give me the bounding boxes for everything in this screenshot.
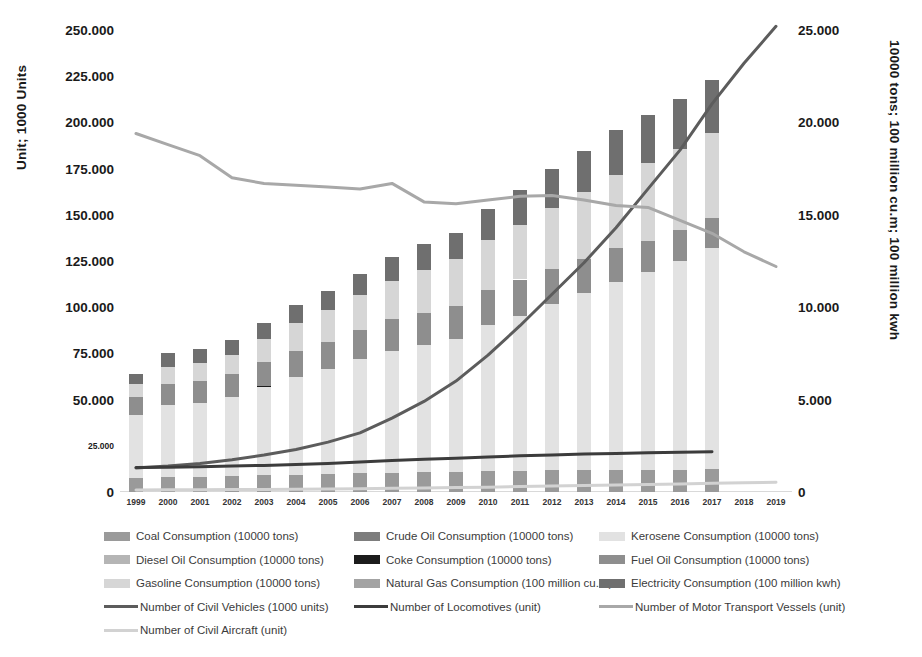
- legend-swatch-icon: [354, 532, 380, 541]
- line-series[interactable]: [136, 26, 776, 468]
- legend-line-icon: [354, 605, 388, 608]
- plot-area: [120, 30, 792, 492]
- legend-label: Diesel Oil Consumption (10000 tons): [136, 554, 324, 566]
- legend-label: Number of Locomotives (unit): [390, 601, 541, 613]
- legend-swatch-icon: [599, 579, 625, 588]
- x-tick-label: 2002: [223, 497, 242, 507]
- legend-swatch-icon: [599, 532, 625, 541]
- y-tick-label: 125.000: [36, 254, 114, 269]
- y-tick-label: 200.000: [36, 115, 114, 130]
- legend-gasoline[interactable]: Gasoline Consumption (10000 tons): [104, 577, 320, 589]
- legend-line-icon: [599, 605, 633, 608]
- x-tick-label: 2009: [447, 497, 466, 507]
- y-tick-label: 250.000: [36, 23, 114, 38]
- x-tick-label: 2015: [639, 497, 658, 507]
- legend-civil-vehicles[interactable]: Number of Civil Vehicles (1000 units): [104, 601, 329, 613]
- x-tick-label: 2004: [287, 497, 306, 507]
- x-tick-label: 2008: [415, 497, 434, 507]
- legend-label: Gasoline Consumption (10000 tons): [136, 577, 320, 589]
- y-axis-left-ticks: 025.00050.00075.000100.000125.000150.000…: [32, 30, 114, 492]
- x-tick-label: 2001: [191, 497, 210, 507]
- legend-natural-gas[interactable]: Natural Gas Consumption (100 million cu.…: [354, 577, 612, 589]
- legend-swatch-icon: [104, 532, 130, 541]
- lines-layer: [120, 30, 792, 492]
- y-axis-right-title: 10000 tons; 100 million cu.m; 100 millio…: [887, 40, 902, 480]
- legend-swatch-icon: [354, 555, 380, 564]
- legend-line-icon: [104, 605, 138, 608]
- y-tick-label: 100.000: [36, 300, 114, 315]
- legend-kerosene[interactable]: Kerosene Consumption (10000 tons): [599, 530, 819, 542]
- y-tick-label: 225.000: [36, 69, 114, 84]
- line-series[interactable]: [136, 482, 776, 490]
- x-tick-label: 2003: [255, 497, 274, 507]
- legend-label: Fuel Oil Consumption (10000 tons): [631, 554, 809, 566]
- x-tick-label: 2000: [159, 497, 178, 507]
- y2-tick-label: 10.000: [798, 300, 870, 315]
- x-tick-label: 1999: [127, 497, 146, 507]
- x-tick-label: 2014: [607, 497, 626, 507]
- y-tick-label: 50.000: [36, 392, 114, 407]
- y-axis-left-title: Unit; 1000 Units: [14, 0, 29, 170]
- y-tick-label: 0: [36, 485, 114, 500]
- x-tick-label: 2018: [735, 497, 754, 507]
- y2-tick-label: 15.000: [798, 207, 870, 222]
- x-tick-label: 2013: [575, 497, 594, 507]
- y2-tick-label: 20.000: [798, 115, 870, 130]
- legend-row: Number of Civil Vehicles (1000 units)Num…: [104, 601, 914, 624]
- legend-label: Coal Consumption (10000 tons): [136, 530, 298, 542]
- legend-row: Coal Consumption (10000 tons)Crude Oil C…: [104, 530, 914, 553]
- legend-line-icon: [104, 629, 138, 632]
- y2-tick-label: 5.000: [798, 392, 870, 407]
- legend-label: Natural Gas Consumption (100 million cu.…: [386, 577, 612, 589]
- y-tick-label: 25.000: [36, 441, 114, 451]
- y-tick-label: 75.000: [36, 346, 114, 361]
- legend-crude-oil[interactable]: Crude Oil Consumption (10000 tons): [354, 530, 573, 542]
- x-tick-label: 2006: [351, 497, 370, 507]
- legend-coal[interactable]: Coal Consumption (10000 tons): [104, 530, 298, 542]
- legend-label: Number of Motor Transport Vessels (unit): [635, 601, 845, 613]
- legend-row: Gasoline Consumption (10000 tons)Natural…: [104, 577, 914, 600]
- chart-container: Unit; 1000 Units 10000 tons; 100 million…: [0, 0, 922, 657]
- legend-civil-aircraft[interactable]: Number of Civil Aircraft (unit): [104, 624, 287, 636]
- x-tick-label: 2011: [511, 497, 529, 507]
- legend-label: Number of Civil Aircraft (unit): [140, 624, 287, 636]
- y2-tick-label: 0: [798, 485, 870, 500]
- legend-swatch-icon: [104, 579, 130, 588]
- legend-label: Coke Consumption (10000 tons): [386, 554, 552, 566]
- legend-fuel-oil[interactable]: Fuel Oil Consumption (10000 tons): [599, 554, 809, 566]
- legend-swatch-icon: [599, 555, 625, 564]
- y-axis-right-ticks: 05.00010.00015.00020.00025.000: [798, 30, 878, 492]
- legend-locomotives[interactable]: Number of Locomotives (unit): [354, 601, 541, 613]
- y-tick-label: 150.000: [36, 207, 114, 222]
- legend-electricity[interactable]: Electricity Consumption (100 million kwh…: [599, 577, 841, 589]
- legend-label: Electricity Consumption (100 million kwh…: [631, 577, 841, 589]
- x-tick-label: 2007: [383, 497, 402, 507]
- x-tick-label: 2012: [543, 497, 562, 507]
- y2-tick-label: 25.000: [798, 23, 870, 38]
- x-tick-label: 2005: [319, 497, 338, 507]
- legend-motor-transport-vessels[interactable]: Number of Motor Transport Vessels (unit): [599, 601, 845, 613]
- x-tick-label: 2017: [703, 497, 722, 507]
- legend-swatch-icon: [354, 579, 380, 588]
- legend-row: Number of Civil Aircraft (unit): [104, 624, 914, 647]
- line-series[interactable]: [136, 134, 776, 267]
- x-tick-label: 2019: [767, 497, 786, 507]
- legend-diesel-oil[interactable]: Diesel Oil Consumption (10000 tons): [104, 554, 324, 566]
- legend-label: Crude Oil Consumption (10000 tons): [386, 530, 573, 542]
- legend-coke[interactable]: Coke Consumption (10000 tons): [354, 554, 552, 566]
- legend-label: Number of Civil Vehicles (1000 units): [140, 601, 329, 613]
- legend-row: Diesel Oil Consumption (10000 tons)Coke …: [104, 554, 914, 577]
- x-tick-label: 2016: [671, 497, 690, 507]
- legend-swatch-icon: [104, 555, 130, 564]
- x-tick-label: 2010: [479, 497, 498, 507]
- x-axis-ticks: 1999200020012002200320042005200620072008…: [120, 497, 792, 513]
- chart-legend: Coal Consumption (10000 tons)Crude Oil C…: [104, 530, 914, 648]
- legend-label: Kerosene Consumption (10000 tons): [631, 530, 819, 542]
- y-tick-label: 175.000: [36, 161, 114, 176]
